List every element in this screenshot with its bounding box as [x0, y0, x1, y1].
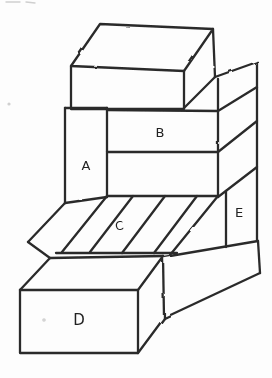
label-block-a: A: [82, 158, 91, 173]
block-d: [20, 256, 164, 353]
bottom-slab: [164, 241, 260, 318]
label-block-c: C: [114, 219, 124, 234]
sketch-page: A B C D E: [0, 0, 272, 378]
top-block: [71, 24, 215, 109]
upper-right-block: [215, 62, 257, 197]
scan-artifacts: [6, 2, 45, 321]
block-assembly-figure: A B C D E: [0, 0, 272, 378]
label-block-e: E: [235, 205, 243, 220]
block-a: [65, 108, 107, 203]
label-block-d: D: [73, 311, 85, 329]
label-block-b: B: [156, 125, 165, 140]
